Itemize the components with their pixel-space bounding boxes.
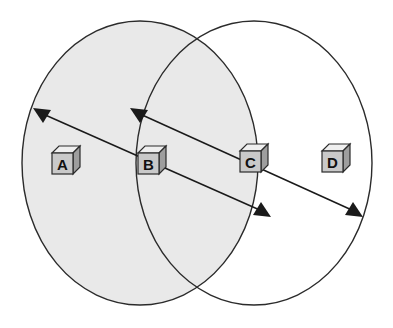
cube-c[interactable]: C [240,144,268,172]
cube-b[interactable]: B [138,146,166,174]
cube-a[interactable]: A [52,146,80,174]
diagram-canvas: A B C D [0,0,393,328]
cube-c-front-face [240,151,261,172]
venn-cubes-figure: A B C D [0,0,393,328]
cube-d[interactable]: D [322,144,350,172]
cube-b-front-face [138,153,159,174]
cube-a-front-face [52,153,73,174]
cube-d-front-face [322,151,343,172]
